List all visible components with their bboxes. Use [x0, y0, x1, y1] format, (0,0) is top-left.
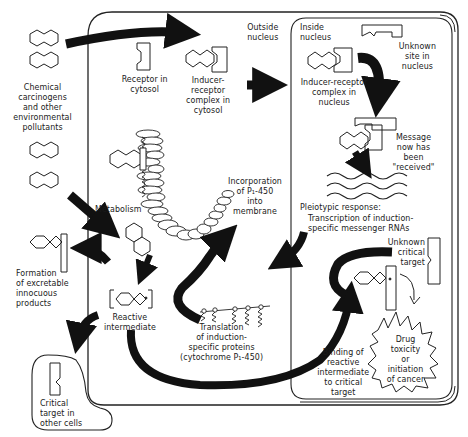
label-binding-reactive: Binding of reactive intermediate to crit… [314, 347, 372, 397]
receptor-cytosol-shape [137, 43, 150, 70]
binding-complex-shape [354, 266, 396, 310]
carcinogen-molecule-top [30, 30, 58, 68]
label-translation: Translation of induction- specific prote… [176, 322, 267, 362]
label-drug-toxicity: Drug toxicity or initiation of cancer [384, 334, 427, 384]
unknown-critical-target-shape [428, 238, 440, 284]
label-pleiotypic: Pleiotypic response: [300, 202, 377, 212]
label-inducer-receptor-nucleus: Inducer-receptor complex in nucleus [298, 77, 370, 107]
label-unknown-critical-target: Unknown critical target [382, 237, 425, 267]
label-message-received: Message now has been "received" [392, 132, 435, 172]
substrate-hexagons-on-er [126, 223, 150, 256]
reactive-intermediate-shape [110, 290, 152, 308]
carcinogen-molecule-bottom [30, 142, 58, 188]
label-inside-nucleus: Inside nucleus [300, 22, 338, 42]
label-inducer-receptor-cytosol: Inducer- receptor complex in cytosol [184, 75, 232, 115]
label-reactive-intermediate: Reactive intermediate [104, 312, 156, 332]
label-chemical-carcinogens: Chemical carcinogens and other environme… [6, 82, 79, 132]
inducer-on-er-shape [110, 148, 146, 170]
label-metabolism: Metabolism [95, 204, 147, 214]
label-transcription: Transcription of induction- specific mes… [308, 213, 437, 233]
pathway-diagram: Chemical carcinogens and other environme… [0, 0, 468, 437]
curl-arrow-small [400, 274, 420, 304]
inducer-receptor-nucleus-shape [308, 48, 352, 72]
label-incorporation: Incorporation of P₁-450 into membrane [224, 176, 286, 216]
unknown-site-shape [362, 25, 402, 37]
label-formation-excretable: Formation of excretable innocuous produc… [16, 268, 81, 308]
mrna-strands [327, 173, 407, 199]
endoplasmic-reticulum [136, 130, 234, 240]
label-receptor-cytosol: Receptor in cytosol [118, 74, 171, 94]
label-unknown-site: Unknown site in nucleus [395, 41, 440, 71]
label-outside-nucleus: Outside nucleus [243, 22, 283, 42]
message-received-shape [340, 118, 396, 150]
label-critical-target-other: Critical target in other cells [40, 398, 85, 428]
inducer-receptor-cytosol-shape [186, 47, 227, 72]
